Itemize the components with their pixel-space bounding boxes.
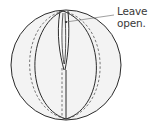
callout-line-2: open. — [117, 17, 147, 29]
callout-dot — [65, 21, 67, 23]
callout-line-1: Leave — [117, 5, 147, 17]
callout-label: Leave open. — [117, 5, 147, 29]
